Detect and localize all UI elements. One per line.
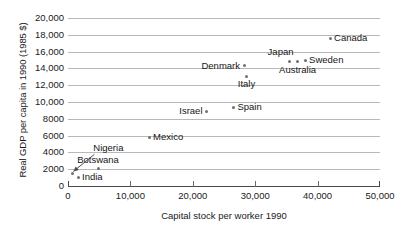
gridline [68, 136, 380, 137]
y-axis-tick-label: 18,000 [2, 30, 64, 40]
data-point-label: Israel [179, 106, 202, 116]
data-point-label: Australia [279, 65, 316, 75]
y-axis-tick-label: 8000 [2, 114, 64, 124]
gridline [68, 102, 380, 103]
gridline [68, 85, 380, 86]
x-axis-tick-label: 50,000 [350, 190, 396, 201]
y-axis-tick-label: 12,000 [2, 80, 64, 90]
data-point-label: Japan [268, 47, 294, 57]
data-point-label: Botswana [77, 155, 119, 165]
data-point-label: Denmark [201, 61, 240, 71]
gridline [68, 119, 380, 120]
data-point-label: Canada [334, 33, 367, 43]
data-point-label: Italy [238, 79, 255, 89]
x-axis-tick [130, 181, 131, 187]
x-axis-left-cap [68, 181, 69, 187]
x-axis-tick-label: 10,000 [100, 190, 160, 201]
data-point-marker[interactable] [205, 110, 208, 113]
data-point-marker[interactable] [97, 167, 100, 170]
x-axis-tick-label: 30,000 [225, 190, 285, 201]
x-axis-tick [193, 181, 194, 187]
x-axis-tick [318, 181, 319, 187]
data-point-label: Nigeria [93, 143, 123, 153]
y-axis-tick-label: 10,000 [2, 97, 64, 107]
data-point-marker[interactable] [71, 172, 74, 175]
y-axis-tick-label: 4000 [2, 147, 64, 157]
gridline [68, 169, 380, 170]
data-point-label: Mexico [153, 132, 183, 142]
data-point-marker[interactable] [232, 106, 235, 109]
data-point-marker[interactable] [148, 136, 151, 139]
gridline [68, 18, 380, 19]
data-point-label: India [82, 172, 103, 182]
y-axis-tick-label: 14,000 [2, 63, 64, 73]
data-point-label: Spain [237, 102, 261, 112]
y-axis-tick-label: 16,000 [2, 47, 64, 57]
y-axis-tick-label: 6000 [2, 131, 64, 141]
x-axis-right-cap [379, 181, 380, 187]
x-axis-title: Capital stock per worker 1990 [68, 210, 380, 221]
y-axis-tick-label: 2000 [2, 164, 64, 174]
gridline [68, 52, 380, 53]
x-axis-tick-label: 0 [38, 190, 98, 201]
x-axis-tick [255, 181, 256, 187]
data-point-marker[interactable] [77, 176, 80, 179]
x-axis-line [68, 186, 380, 187]
plot-area: CanadaSwedenJapanAustraliaDenmarkItalySp… [68, 18, 380, 186]
scatter-chart-figure: Real GDP per capita in 1990 (1985 $) Cap… [0, 0, 396, 231]
data-point-marker[interactable] [243, 64, 246, 67]
x-axis-tick-label: 40,000 [288, 190, 348, 201]
y-axis-tick-label: 20,000 [2, 13, 64, 23]
data-point-marker[interactable] [329, 37, 332, 40]
data-point-marker[interactable] [304, 59, 307, 62]
x-axis-tick-label: 20,000 [163, 190, 223, 201]
